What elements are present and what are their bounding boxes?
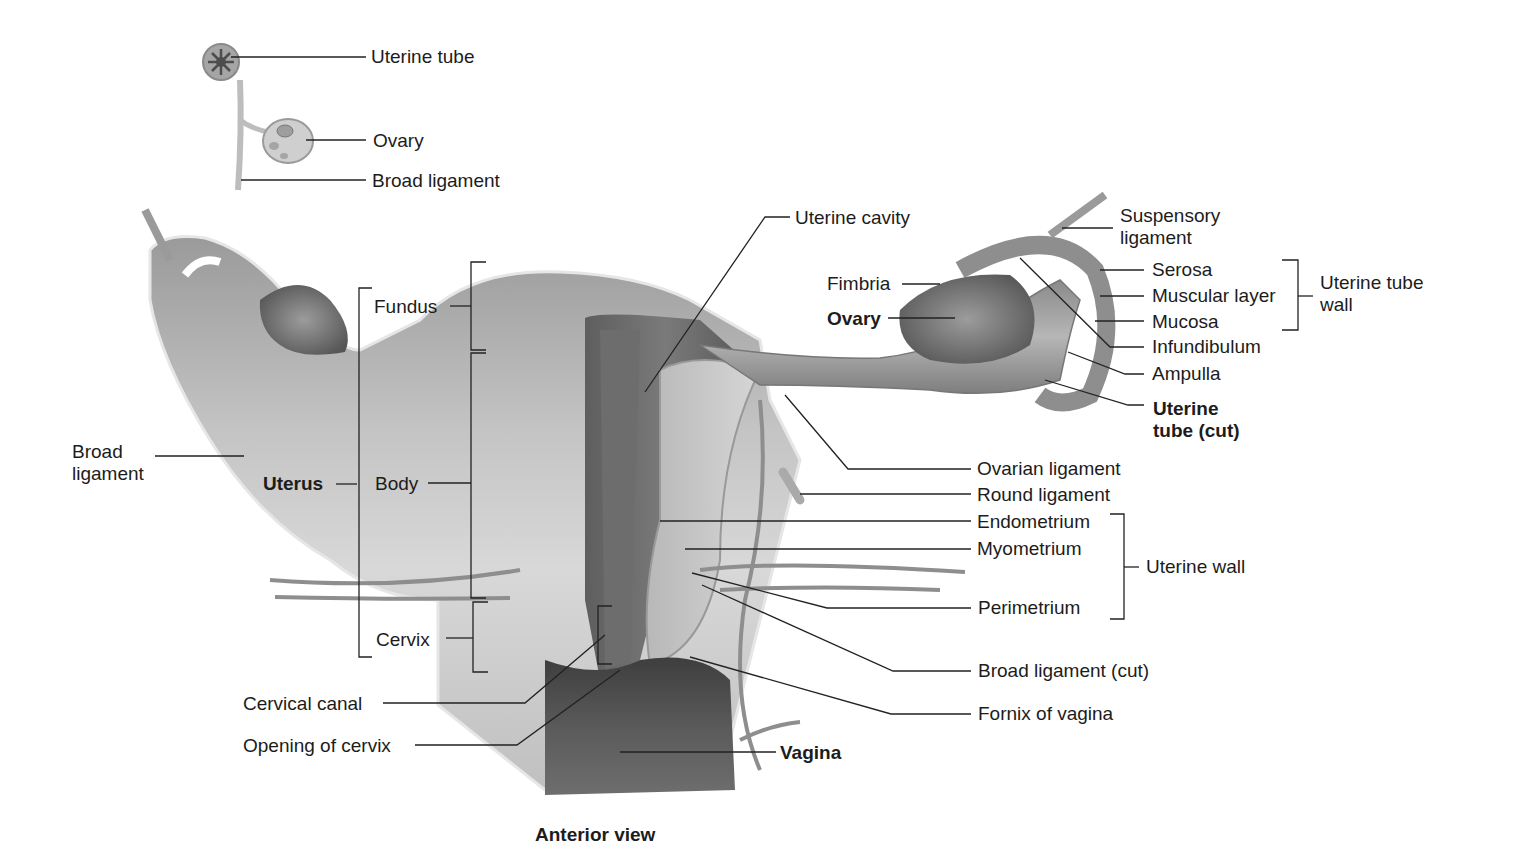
label-opening-of-cervix: Opening of cervix — [243, 735, 391, 757]
label-broad-ligament-line2: ligament — [72, 463, 144, 485]
label-uterine-tube-wall-line1: Uterine tube — [1320, 272, 1424, 294]
label-uterine-tube-wall: Uterine tube wall — [1320, 272, 1424, 316]
label-broad-ligament: Broad ligament — [72, 441, 144, 485]
label-mucosa: Mucosa — [1152, 311, 1219, 333]
label-endometrium: Endometrium — [977, 511, 1090, 533]
label-broad-ligament-cut: Broad ligament (cut) — [978, 660, 1149, 682]
label-ovarian-ligament: Ovarian ligament — [977, 458, 1121, 480]
label-uterine-cavity: Uterine cavity — [795, 207, 910, 229]
inset-cross-section — [203, 44, 366, 190]
label-ovary: Ovary — [827, 308, 881, 330]
label-muscular-layer: Muscular layer — [1152, 285, 1276, 307]
label-infundibulum: Infundibulum — [1152, 336, 1261, 358]
label-uterine-tube-wall-line2: wall — [1320, 294, 1424, 316]
label-ampulla: Ampulla — [1152, 363, 1221, 385]
uterus-anatomy-illustration — [0, 0, 1515, 847]
label-cervix: Cervix — [376, 629, 430, 651]
label-inset-broad-ligament: Broad ligament — [372, 170, 500, 192]
label-uterine-tube-cut: Uterine tube (cut) — [1153, 398, 1240, 442]
label-suspensory-ligament-line1: Suspensory — [1120, 205, 1220, 227]
label-serosa: Serosa — [1152, 259, 1212, 281]
label-uterine-tube-cut-line2: tube (cut) — [1153, 420, 1240, 442]
label-uterus: Uterus — [263, 473, 323, 495]
label-fimbria: Fimbria — [827, 273, 890, 295]
label-suspensory-ligament: Suspensory ligament — [1120, 205, 1220, 249]
label-uterine-tube-cut-line1: Uterine — [1153, 398, 1240, 420]
label-body: Body — [375, 473, 418, 495]
label-round-ligament: Round ligament — [977, 484, 1110, 506]
label-broad-ligament-line1: Broad — [72, 441, 144, 463]
label-inset-uterine-tube: Uterine tube — [371, 46, 475, 68]
label-fornix-of-vagina: Fornix of vagina — [978, 703, 1113, 725]
label-myometrium: Myometrium — [977, 538, 1082, 560]
label-perimetrium: Perimetrium — [978, 597, 1080, 619]
label-fundus: Fundus — [374, 296, 437, 318]
label-inset-ovary: Ovary — [373, 130, 424, 152]
label-uterine-wall: Uterine wall — [1146, 556, 1245, 578]
label-vagina: Vagina — [780, 742, 841, 764]
figure-caption: Anterior view — [535, 824, 655, 846]
label-suspensory-ligament-line2: ligament — [1120, 227, 1220, 249]
label-cervical-canal: Cervical canal — [243, 693, 362, 715]
